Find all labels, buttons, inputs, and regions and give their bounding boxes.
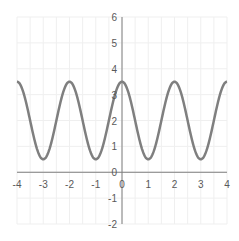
x-tick-label: 2 bbox=[172, 179, 178, 190]
x-tick-label: -4 bbox=[13, 179, 22, 190]
y-tick-label: 3 bbox=[111, 90, 117, 101]
y-tick-label: -1 bbox=[108, 193, 117, 204]
x-tick-label: -3 bbox=[39, 179, 48, 190]
x-tick-label: -1 bbox=[91, 179, 100, 190]
y-tick-label: 0 bbox=[111, 167, 117, 178]
x-tick-label: 4 bbox=[224, 179, 230, 190]
y-tick-label: 5 bbox=[111, 38, 117, 49]
y-tick-label: 6 bbox=[111, 12, 117, 23]
y-tick-label: 2 bbox=[111, 116, 117, 127]
x-tick-label: 0 bbox=[119, 179, 125, 190]
y-tick-label: 1 bbox=[111, 141, 117, 152]
x-tick-label: -2 bbox=[65, 179, 74, 190]
x-tick-label: 1 bbox=[145, 179, 151, 190]
y-tick-label: 4 bbox=[111, 64, 117, 75]
y-tick-label: -2 bbox=[108, 219, 117, 230]
x-tick-label: 3 bbox=[198, 179, 204, 190]
chart: -4-3-2-101234 -2-10123456 bbox=[0, 0, 239, 241]
x-axis-tick-labels: -4-3-2-101234 bbox=[13, 179, 231, 190]
